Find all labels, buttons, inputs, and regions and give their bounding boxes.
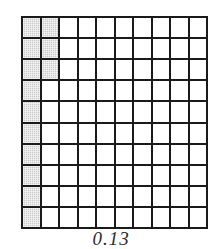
grid-cell-empty [190,208,209,229]
grid-cell-empty [190,124,209,145]
grid-cell-empty [79,39,98,60]
grid-cell-empty [153,187,172,208]
grid-cell-empty [171,208,190,229]
grid-cell-empty [134,145,153,166]
grid-cell-empty [153,39,172,60]
grid-cell-empty [134,187,153,208]
grid-cell-empty [171,81,190,102]
grid-cell-empty [171,145,190,166]
grid-cell-shaded [23,145,42,166]
grid-cell-empty [97,18,116,39]
grid-cell-empty [190,145,209,166]
grid-cell-empty [42,124,61,145]
grid-cell-empty [79,145,98,166]
grid-cell-empty [97,145,116,166]
grid-cell-empty [190,187,209,208]
grid-cell-empty [190,60,209,81]
grid-cell-empty [97,124,116,145]
decimal-grid-figure: 0.13 [0,0,222,249]
grid-cell-shaded [42,39,61,60]
grid-cell-empty [42,187,61,208]
grid-cell-empty [60,187,79,208]
grid-cell-empty [79,187,98,208]
grid-cell-empty [97,60,116,81]
grid-cell-empty [97,208,116,229]
grid-cell-empty [190,81,209,102]
grid-cell-empty [134,102,153,123]
grid-cell-empty [97,81,116,102]
grid-cell-shaded [23,124,42,145]
grid-cell-empty [116,124,135,145]
grid-cell-empty [116,60,135,81]
grid-cell-empty [116,102,135,123]
grid-cell-empty [153,81,172,102]
grid-cell-empty [153,18,172,39]
grid-cell-empty [97,102,116,123]
grid-cell-shaded [23,18,42,39]
grid-cell-empty [171,124,190,145]
grid-cell-empty [153,145,172,166]
grid-cell-shaded [23,166,42,187]
grid-cell-shaded [23,81,42,102]
grid-cell-empty [60,145,79,166]
grid-cell-empty [116,145,135,166]
grid-cell-empty [42,145,61,166]
grid-cell-empty [60,60,79,81]
grid-cell-empty [60,18,79,39]
grid-caption: 0.13 [0,229,222,249]
grid-cell-empty [60,81,79,102]
grid-cell-empty [153,102,172,123]
grid-cell-empty [60,124,79,145]
grid-cell-shaded [23,187,42,208]
grid-cell-empty [116,18,135,39]
grid-cell-empty [60,166,79,187]
grid-cell-empty [153,60,172,81]
grid-cell-empty [190,102,209,123]
grid-cell-shaded [23,60,42,81]
grid-cell-empty [79,166,98,187]
grid-cell-empty [116,187,135,208]
grid-cell-empty [79,124,98,145]
grid-cell-empty [97,166,116,187]
grid-cell-empty [134,208,153,229]
grid-cell-shaded [23,102,42,123]
grid-cell-empty [116,208,135,229]
grid-cell-empty [134,18,153,39]
grid-cell-empty [60,39,79,60]
grid-cell-empty [60,208,79,229]
grid-cell-empty [79,208,98,229]
grid-cell-empty [42,208,61,229]
decimal-grid [21,16,208,229]
grid-cell-empty [190,18,209,39]
grid-cell-empty [134,81,153,102]
grid-cell-shaded [23,208,42,229]
grid-cell-empty [171,18,190,39]
grid-cell-empty [116,81,135,102]
grid-cell-empty [171,60,190,81]
grid-cell-empty [97,39,116,60]
grid-cell-empty [42,166,61,187]
grid-cell-empty [134,60,153,81]
grid-cell-empty [153,208,172,229]
grid-cell-empty [116,39,135,60]
grid-cell-empty [42,81,61,102]
grid-cell-empty [190,166,209,187]
grid-cell-empty [116,166,135,187]
grid-cell-empty [79,60,98,81]
grid-cell-shaded [23,39,42,60]
grid-cell-empty [97,187,116,208]
grid-cell-empty [134,39,153,60]
grid-cell-empty [60,102,79,123]
grid-cell-empty [79,81,98,102]
grid-cell-empty [171,39,190,60]
grid-cell-empty [79,102,98,123]
grid-cell-empty [171,166,190,187]
grid-cell-shaded [42,60,61,81]
grid-cell-empty [190,39,209,60]
grid-cell-empty [134,166,153,187]
grid-cell-shaded [42,18,61,39]
grid-cell-empty [153,166,172,187]
grid-container [21,16,208,229]
grid-cell-empty [171,187,190,208]
grid-cell-empty [42,102,61,123]
